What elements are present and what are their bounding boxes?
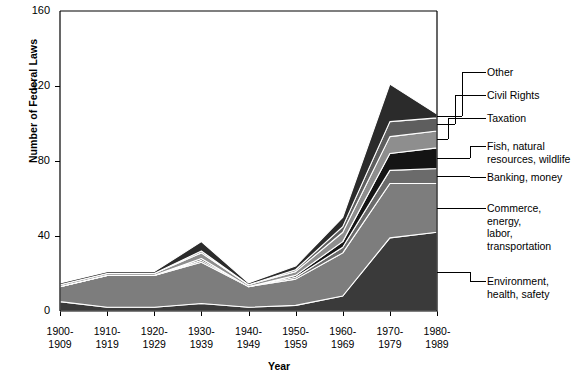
y-tick-label: 0	[18, 304, 50, 316]
legend-leader-0	[470, 281, 486, 282]
legend-leader-4	[448, 118, 486, 119]
legend-leader-3	[470, 146, 486, 147]
y-tick-label: 160	[18, 4, 50, 16]
x-tick-mark	[60, 311, 61, 316]
x-tick-mark	[437, 311, 438, 316]
area-band-1	[60, 184, 437, 308]
legend-leader-6	[462, 72, 486, 73]
area-band-5	[60, 118, 437, 285]
legend-label-6: Other	[487, 66, 571, 79]
y-tick-label: 40	[18, 229, 50, 241]
legend-label-1: Commerce, energy, labor, transportation	[487, 202, 571, 252]
legend-label-5: Civil Rights	[487, 89, 571, 102]
area-band-3	[60, 148, 437, 287]
legend-leader-elbow-6	[462, 72, 463, 116]
legend-leader-elbow-3	[470, 146, 471, 158]
area-band-6	[60, 84, 437, 285]
legend-leader-elbow-0	[470, 272, 471, 281]
legend-leader-2	[470, 177, 486, 178]
legend-pointer-3	[437, 158, 470, 159]
x-tick-mark	[201, 311, 202, 316]
y-tick-mark	[55, 86, 60, 87]
legend-pointer-1	[437, 208, 470, 209]
area-band-0	[60, 232, 437, 311]
x-tick-label: 1980- 1989	[407, 325, 467, 350]
legend-leader-elbow-4	[448, 118, 449, 139]
legend-pointer-4	[437, 139, 448, 140]
legend-label-3: Fish, natural resources, wildlife	[487, 140, 571, 165]
legend-leader-1	[470, 208, 486, 209]
x-tick-mark	[343, 311, 344, 316]
legend-leader-elbow-5	[455, 95, 456, 124]
x-tick-mark	[154, 311, 155, 316]
x-tick-mark	[249, 311, 250, 316]
legend-pointer-6	[437, 116, 462, 117]
x-tick-mark	[107, 311, 108, 316]
legend-label-2: Banking, money	[487, 171, 571, 184]
x-tick-mark	[390, 311, 391, 316]
area-band-2	[60, 169, 437, 287]
x-tick-mark	[296, 311, 297, 316]
legend-pointer-2	[437, 176, 470, 177]
legend-label-4: Taxation	[487, 112, 571, 125]
y-tick-label: 80	[18, 154, 50, 166]
legend-leader-5	[455, 95, 486, 96]
area-band-4	[60, 131, 437, 287]
x-axis-title: Year	[268, 360, 290, 372]
legend-pointer-5	[437, 124, 455, 125]
legend-pointer-0	[437, 272, 470, 273]
y-tick-mark	[55, 236, 60, 237]
y-tick-label: 120	[18, 79, 50, 91]
y-tick-mark	[55, 161, 60, 162]
legend-label-0: Environment, health, safety	[487, 275, 571, 300]
